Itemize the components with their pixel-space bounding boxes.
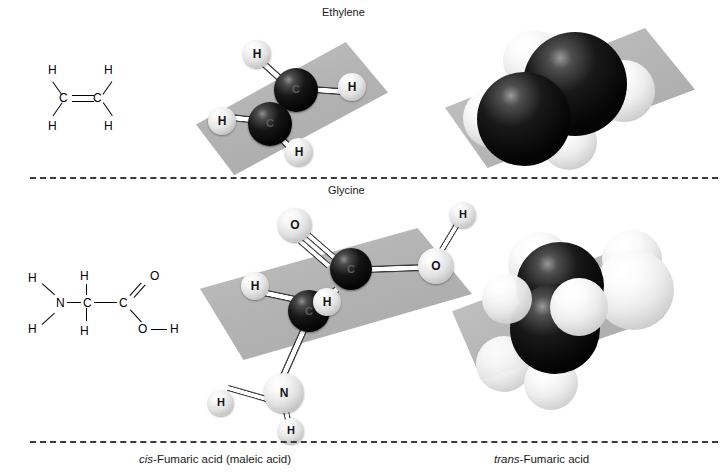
atom-label-h: H [28,323,37,335]
ethylene-ball-and-stick-model: H H H H C C [196,28,392,172]
atom-sphere-hydrogen: H [338,73,366,101]
atom-label-c: C [119,297,128,309]
atom-sphere-label: H [285,145,313,159]
bond-c-h [86,284,87,295]
atom-sphere-oxygen [594,250,674,330]
bond-c-o [129,309,141,323]
atom-sphere-hydrogen: H [450,202,476,228]
atom-label-h: H [170,323,179,335]
atom-label-o: O [150,270,159,282]
atom-label-h: H [48,64,57,76]
bond-n-c [67,302,81,303]
atom-label-h: H [104,64,113,76]
ethylene-space-filling-model [445,22,695,172]
atom-sphere-carbon: C [330,248,372,290]
bond-n-h [42,313,56,325]
atom-sphere-label: H [208,396,234,408]
atom-sphere-hydrogen: H [208,390,234,416]
section-label-glycine: Glycine [328,184,365,197]
atom-sphere-label: H [278,424,304,436]
atom-sphere-nitrogen [482,274,532,324]
bond-c-h [102,102,112,116]
atom-sphere-oxygen: O [418,248,454,284]
atom-sphere-label: O [278,218,312,232]
bond-c-h [86,308,87,321]
bond-c-h [52,102,62,116]
atom-label-n: N [56,297,65,309]
atom-sphere-hydrogen: H [285,138,313,166]
caption-trans-fumaric-acid: trans-Fumaric acid [494,452,589,466]
bond-c-c [94,302,117,303]
glycine-space-filling-model [452,238,698,434]
atom-sphere-oxygen: O [278,208,312,242]
section-divider [30,177,718,179]
atom-sphere-carbon [477,72,571,166]
bond-c-c-double [72,101,94,102]
atom-sphere-hydrogen [550,278,608,336]
atom-label-h: H [48,120,57,132]
atom-label-h: H [28,272,37,284]
atom-label-h: H [80,270,89,282]
caption-italic-prefix: cis [139,453,153,465]
section-divider [30,441,718,443]
atom-sphere-label: H [241,279,269,293]
atom-sphere-label: O [418,259,454,273]
bond-o-h [151,329,167,330]
atom-sphere-label: H [338,80,366,94]
glycine-ball-and-stick-model: O H O C H C H N H H [200,200,490,460]
bond-c-c-double [72,95,94,96]
atom-sphere-nitrogen: N [264,373,304,413]
atom-label-h: H [104,120,113,132]
atom-sphere-hydrogen: H [208,107,236,135]
atom-sphere-hydrogen: H [241,272,269,300]
atom-sphere-label: C [274,83,318,95]
atom-label-h: H [80,325,89,337]
atom-sphere-carbon: C [248,102,292,146]
bond-c-h [52,81,62,95]
bond-c-h [102,81,112,95]
atom-sphere-hydrogen: H [313,288,341,316]
bond-n-h [42,283,56,295]
ethylene-structural-formula: H H C C H H [35,62,135,136]
caption-rest: -Fumaric acid [520,453,590,465]
atom-label-o: O [138,323,147,335]
atom-sphere-hydrogen: H [243,40,271,68]
molecular-geometry-figure: Ethylene H H C C H H H H H [0,0,724,474]
atom-sphere-label: H [313,295,341,309]
atom-label-c: C [93,92,102,104]
caption-italic-prefix: trans [494,453,520,465]
caption-rest: -Fumaric acid (maleic acid) [153,453,291,465]
atom-sphere-label: C [248,117,292,129]
caption-cis-fumaric-acid: cis-Fumaric acid (maleic acid) [139,452,291,466]
atom-sphere-label: H [450,208,476,220]
atom-sphere-label: H [243,47,271,61]
glycine-structural-formula: H H O N C C H H O H [22,266,194,340]
atom-sphere-label: C [330,263,372,275]
atom-sphere-label: N [264,386,304,400]
atom-sphere-label: H [208,114,236,128]
section-label-ethylene: Ethylene [322,6,365,19]
